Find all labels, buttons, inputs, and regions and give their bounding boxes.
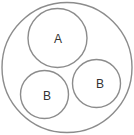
circle-b-right-group: B: [73, 60, 121, 108]
circle-a-label: A: [54, 32, 62, 46]
circle-b-left-group: B: [21, 71, 69, 119]
circle-b-right-label: B: [96, 77, 104, 91]
nested-circles-diagram: A B B: [0, 0, 134, 135]
circle-b-left-label: B: [43, 89, 51, 103]
circle-a-group: A: [28, 9, 87, 68]
